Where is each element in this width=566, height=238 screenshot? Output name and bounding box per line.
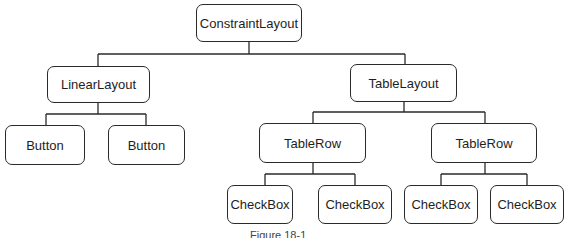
node-checkbox-3: CheckBox bbox=[404, 185, 478, 224]
node-linear-layout: LinearLayout bbox=[47, 66, 150, 103]
node-table-row-2: TableRow bbox=[431, 123, 537, 163]
node-table-layout: TableLayout bbox=[350, 64, 457, 102]
node-checkbox-2: CheckBox bbox=[318, 185, 392, 224]
node-button-2: Button bbox=[108, 125, 185, 165]
node-table-row-1: TableRow bbox=[259, 123, 366, 163]
node-constraint-layout: ConstraintLayout bbox=[196, 4, 302, 42]
node-button-1: Button bbox=[5, 125, 85, 165]
figure-caption: Figure 18-1 bbox=[250, 229, 306, 238]
node-checkbox-4: CheckBox bbox=[490, 185, 564, 224]
node-checkbox-1: CheckBox bbox=[227, 185, 293, 224]
